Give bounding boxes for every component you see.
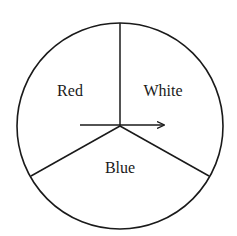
- sector-label-red: Red: [57, 82, 83, 99]
- sector-label-white: White: [143, 82, 182, 99]
- sector-label-blue: Blue: [105, 159, 135, 176]
- spinner-diagram: Red White Blue: [0, 0, 237, 236]
